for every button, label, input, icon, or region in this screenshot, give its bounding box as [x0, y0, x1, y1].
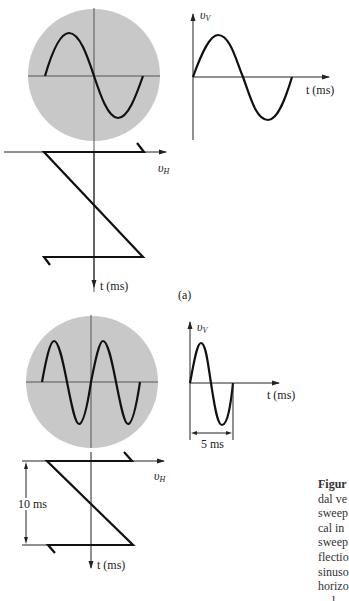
- caption-line: cal in: [318, 521, 349, 536]
- figure-caption: Figur dal ve sweep cal in sweep flectio …: [318, 477, 349, 601]
- panel-b-scope-screen: [26, 315, 158, 448]
- caption-line: flectio: [318, 550, 349, 565]
- caption-line: sinuso: [318, 565, 349, 580]
- caption-line: dal ve: [318, 492, 349, 507]
- panel-b-vv-sine: [190, 343, 233, 425]
- panel-b-vv-time-axis-label: t (ms): [267, 389, 295, 401]
- panel-b-vh-axis-label: υH: [154, 470, 165, 482]
- caption-line: sweep: [318, 535, 349, 550]
- caption-title: Figur: [318, 477, 349, 492]
- caption-line: horizo: [318, 579, 349, 594]
- panel-a-vv-time-axis-label: t (ms): [306, 84, 334, 96]
- panel-a-sweep-plot: [4, 143, 166, 287]
- panel-a-t-axis-label: t (ms): [100, 280, 128, 292]
- panel-b-vv-axis-label: υV: [197, 321, 207, 333]
- panel-a-vh-axis-label: υH: [158, 162, 169, 174]
- panel-a-vv-axis-label: υV: [200, 9, 210, 21]
- panel-b-t-axis-label: t (ms): [97, 559, 125, 571]
- panel-b-period-5ms-label: 5 ms: [201, 438, 224, 450]
- caption-line: sweep: [318, 506, 349, 521]
- panel-a-label: (a): [178, 289, 191, 301]
- panel-a-vertical-input-plot: [193, 14, 329, 140]
- caption-line: - - l -: [318, 594, 349, 601]
- panel-b-sawtooth: [47, 452, 133, 553]
- panel-b-period-10ms-label: 10 ms: [17, 498, 48, 510]
- panel-b-vertical-input-plot: [190, 322, 279, 440]
